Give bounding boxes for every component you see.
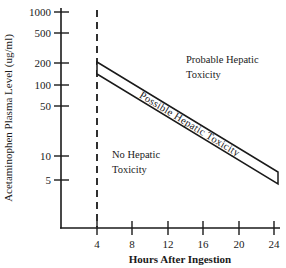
y-tick-label-100: 100	[35, 79, 52, 91]
acetaminophen-nomogram-chart: 1000 500 200 100 50 10 5 4 8 12 16 20 24…	[0, 0, 286, 268]
y-tick-label-200: 200	[35, 57, 52, 69]
probable-hepatic-toxicity-label-line1: Probable Hepatic	[186, 54, 259, 65]
y-tick-label-50: 50	[40, 100, 52, 112]
x-tick-label-16: 16	[198, 238, 210, 250]
y-tick-label-10: 10	[40, 150, 52, 162]
x-axis-title: Hours After Ingestion	[129, 253, 231, 265]
x-tick-label-24: 24	[269, 238, 281, 250]
no-hepatic-toxicity-label-line2: Toxicity	[112, 164, 148, 175]
x-tick-label-12: 12	[163, 238, 174, 250]
probable-hepatic-toxicity-label-line2: Toxicity	[186, 69, 222, 80]
y-axis-title: Acetaminophen Plasma Level (ug/ml)	[2, 34, 15, 202]
nomogram-plot-area: 1000 500 200 100 50 10 5 4 8 12 16 20 24…	[0, 0, 286, 268]
x-tick-label-8: 8	[129, 238, 135, 250]
x-tick-label-20: 20	[234, 238, 246, 250]
no-hepatic-toxicity-label-line1: No Hepatic	[112, 149, 160, 160]
x-tick-label-4: 4	[94, 238, 100, 250]
y-tick-label-500: 500	[35, 27, 52, 39]
y-tick-label-5: 5	[46, 174, 52, 186]
y-tick-label-1000: 1000	[29, 6, 52, 18]
